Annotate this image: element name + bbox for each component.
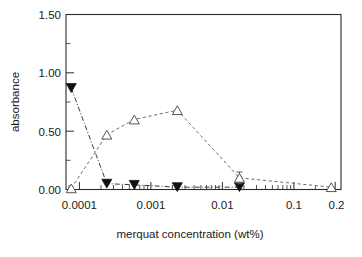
- series-filled-triangle-series: [66, 84, 244, 192]
- y-tick-label-1: 1.50: [39, 9, 61, 21]
- y-axis-ticks: [66, 15, 74, 190]
- x-axis-title: merquat concentration (wt%): [116, 228, 263, 240]
- filled-triangle-series-marker: [66, 84, 76, 93]
- data-series-layer: [66, 84, 336, 193]
- x-tick-label-2: 0.001: [137, 199, 166, 211]
- open-triangle-series-marker: [129, 115, 139, 124]
- open-triangle-series-line: [71, 110, 331, 188]
- y-tick-label-3: 0.50: [39, 126, 61, 138]
- y-axis-title: absorbance: [9, 72, 21, 132]
- filled-triangle-series-marker: [172, 183, 182, 192]
- open-triangle-series-marker: [66, 184, 76, 193]
- filled-triangle-series-marker: [102, 179, 112, 188]
- absorbance-vs-merquat-concentration-chart: 1.50 1.00 0.50 0.00 absorbance: [0, 0, 362, 257]
- y-tick-label-2: 1.00: [39, 67, 61, 79]
- open-triangle-series-marker: [172, 106, 182, 115]
- x-tick-label-1: 0.0001: [62, 199, 97, 211]
- filled-triangle-series-line: [71, 88, 239, 187]
- x-axis-major-ticks: [79, 182, 335, 190]
- y-tick-label-4: 0.00: [39, 184, 61, 196]
- chart-canvas: 1.50 1.00 0.50 0.00 absorbance: [0, 0, 362, 257]
- plot-frame: [66, 15, 341, 190]
- x-tick-label-3: 0.01: [211, 199, 233, 211]
- x-tick-label-4: 0.1: [286, 199, 302, 211]
- open-triangle-series-marker: [102, 130, 112, 139]
- x-tick-label-5: 0.2: [329, 199, 345, 211]
